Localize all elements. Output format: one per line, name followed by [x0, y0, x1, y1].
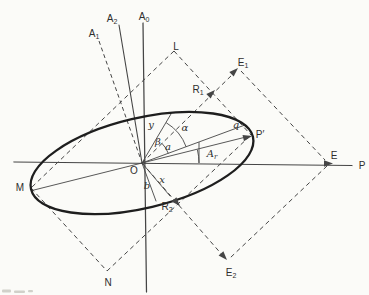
e2-arrowhead — [219, 251, 227, 260]
label-a0: A0 — [139, 11, 150, 24]
e1-arrowhead — [229, 68, 238, 77]
label-m: M — [16, 182, 24, 193]
label-q: q — [233, 119, 239, 130]
label-o: O — [130, 165, 138, 176]
p-axis-line — [14, 162, 352, 166]
figure-page: A0A2A1LE1R1qP′EPyαβaArOxbMR2E2N — [0, 0, 369, 295]
label-p: P — [359, 160, 366, 171]
label-beta: β — [154, 136, 161, 147]
label-l: L — [173, 41, 179, 52]
a1-axis-dashed — [99, 41, 141, 160]
rect-side-n-c — [107, 135, 251, 271]
label-e1: E1 — [238, 57, 249, 70]
a2-axis-line — [119, 25, 142, 163]
label-n: N — [104, 277, 111, 288]
label-p-prime: P′ — [256, 129, 265, 140]
o-e1-dashed — [142, 72, 235, 163]
label-r1: R1 — [192, 84, 203, 97]
caption-fragment — [2, 290, 11, 293]
rect-side-m-n — [31, 188, 107, 271]
e-e2-dashed — [230, 166, 327, 258]
caption-fragment — [14, 291, 25, 293]
label-a1: A1 — [89, 28, 100, 41]
label-alpha: α — [182, 122, 189, 133]
label-a-semiaxis: a — [165, 141, 171, 152]
caption-fragment — [28, 290, 33, 292]
label-e: E — [331, 150, 338, 161]
label-e2: E2 — [226, 267, 237, 280]
label-a2: A2 — [107, 13, 118, 26]
p-prime-arrowhead — [243, 135, 253, 141]
label-ar: Ar — [206, 148, 218, 162]
label-b: b — [144, 180, 150, 191]
diagram-canvas: A0A2A1LE1R1qP′EPyαβaArOxbMR2E2N — [0, 0, 369, 295]
label-x: x — [159, 174, 165, 185]
label-y: y — [147, 119, 154, 130]
